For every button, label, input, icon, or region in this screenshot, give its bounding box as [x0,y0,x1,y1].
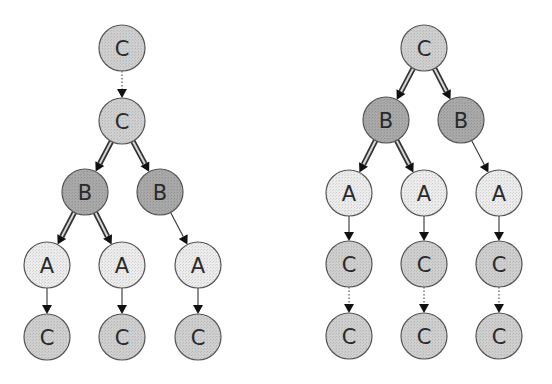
arrowhead-icon [344,232,354,241]
edge-single [494,216,504,241]
node-label: C [115,326,130,350]
node-C: C [99,314,145,360]
node-C: C [99,25,145,71]
node-B: B [438,97,484,143]
node-B: B [137,169,183,215]
node-A: A [175,242,221,288]
node-label: C [342,253,357,277]
tree-diagram: CCBBAAACCCCBBAAACCCCCC [0,0,552,384]
node-label: C [40,326,55,350]
edge-single [419,216,429,241]
node-C: C [401,241,447,287]
arrowhead-icon [419,304,429,313]
node-label: C [417,253,432,277]
node-C: C [326,241,372,287]
arrowhead-icon [419,232,429,241]
node-C: C [326,313,372,359]
node-label: C [417,325,432,349]
node-A: A [476,170,522,216]
edge-single [472,140,489,172]
node-label: B [454,109,468,133]
edge-double [57,212,74,244]
node-label: A [40,254,55,278]
node-C: C [476,241,522,287]
node-B: B [62,169,108,215]
edge-double [95,141,111,171]
node-label: A [492,182,507,206]
node-label: B [153,181,167,205]
node-label: C [417,37,432,61]
node-C: C [401,313,447,359]
edge-double [397,68,414,99]
edge-dotted [494,287,504,313]
node-label: B [379,109,393,133]
node-label: C [492,325,507,349]
node-C: C [99,98,145,144]
node-label: C [492,253,507,277]
node-label: B [78,181,92,205]
arrowhead-icon [344,304,354,313]
edge-double [397,140,414,172]
node-label: A [191,254,206,278]
edge-single [117,288,127,314]
edge-single [42,288,52,314]
nodes-layer: CCBBAAACCCCBBAAACCCCCC [24,25,522,360]
edge-dotted [344,287,354,313]
node-A: A [401,170,447,216]
node-C: C [24,314,70,360]
arrowhead-icon [193,305,203,314]
edge-single [193,288,203,314]
edge-dotted [419,287,429,313]
node-label: A [115,254,130,278]
arrowhead-icon [42,305,52,314]
arrowhead-icon [494,304,504,313]
node-label: C [115,37,130,61]
node-B: B [363,97,409,143]
edge-single [344,216,354,241]
arrowhead-icon [494,232,504,241]
edge-double [133,141,149,171]
node-C: C [401,25,447,71]
node-A: A [326,170,372,216]
edge-dotted [117,71,127,98]
node-label: A [417,182,432,206]
node-A: A [24,242,70,288]
node-A: A [99,242,145,288]
edge-single [171,212,188,244]
edge-double [435,68,451,99]
node-label: A [342,182,357,206]
node-C: C [175,314,221,360]
node-C: C [476,313,522,359]
node-label: C [191,326,206,350]
edge-double [359,141,376,173]
arrowhead-icon [117,305,127,314]
edge-double [95,213,112,245]
node-label: C [342,325,357,349]
node-label: C [115,110,130,134]
arrowhead-icon [117,89,127,98]
